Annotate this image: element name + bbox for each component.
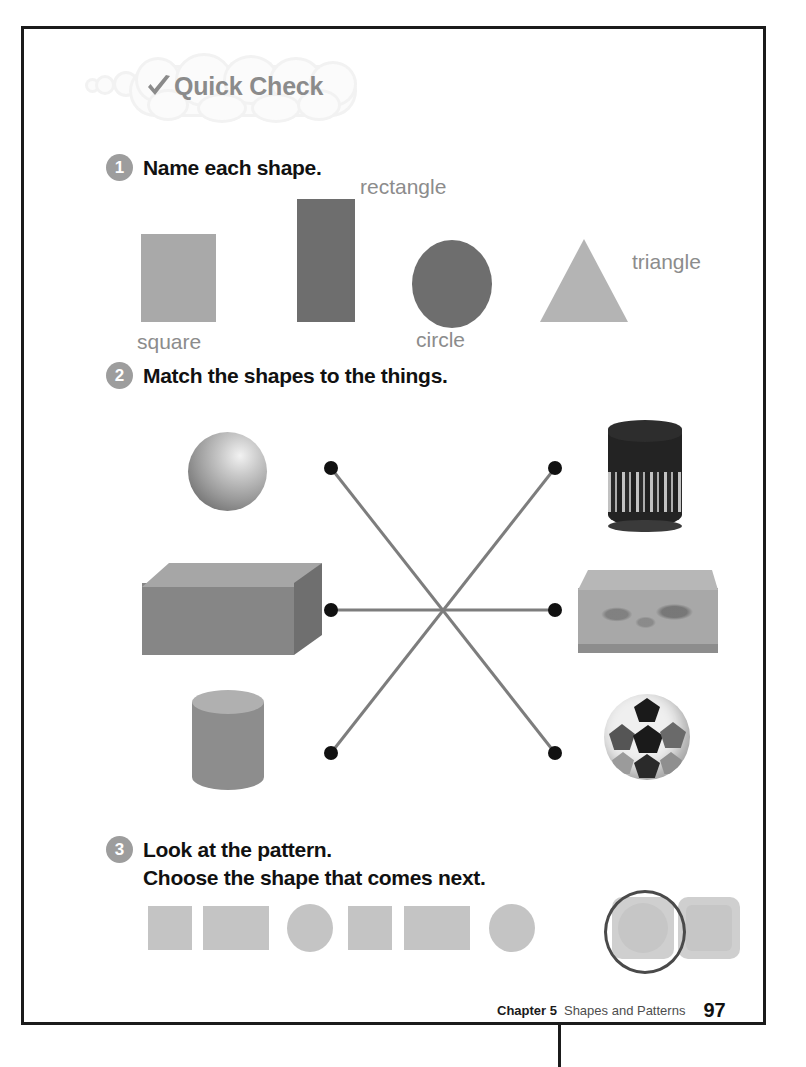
shape-label-triangle: triangle (632, 250, 701, 274)
figure-rectangular-prism (142, 563, 322, 659)
question-2-text: Match the shapes to the things. (143, 364, 448, 388)
question-2-badge: 2 (106, 362, 133, 389)
box-floral-pattern (588, 596, 708, 636)
cloud-puff-tiny-2 (98, 78, 112, 92)
question-3-badge: 3 (106, 836, 133, 863)
shape-rectangle (297, 199, 355, 322)
footer-title: Shapes and Patterns (564, 1003, 685, 1018)
quick-check-banner: Quick Check (90, 58, 360, 120)
page-footer: Chapter 5Shapes and Patterns97 (497, 999, 726, 1022)
figure-sphere (188, 432, 267, 511)
object-tin-canister (606, 420, 684, 530)
pattern-item-5-rectangle (404, 906, 470, 950)
ball-patch-left (609, 724, 635, 750)
selected-answer-circle-marker (604, 890, 686, 974)
question-3-line-1: Look at the pattern. (143, 838, 332, 862)
question-3-line-2: Choose the shape that comes next. (143, 866, 486, 890)
tin-base-rim (608, 520, 682, 532)
cylinder-top-cap (192, 690, 264, 714)
question-1-badge: 1 (106, 154, 133, 181)
tin-lid (608, 420, 682, 442)
shape-circle (412, 240, 492, 328)
ball-patch-center (633, 725, 663, 753)
footer-page-number: 97 (703, 999, 725, 1021)
shape-label-square: square (137, 330, 201, 354)
shape-triangle (540, 239, 628, 322)
ball-patch-right (660, 722, 686, 748)
shape-label-circle: circle (416, 328, 465, 352)
ball-patch-bottom (634, 754, 660, 778)
pattern-item-6-circle (489, 904, 535, 952)
quick-check-label: Quick Check (174, 72, 323, 101)
question-1-text: Name each shape. (143, 156, 321, 180)
pattern-item-3-circle (287, 904, 333, 952)
ball-patch-top (634, 698, 660, 722)
footer-chapter: Chapter 5 (497, 1003, 557, 1018)
box-base-edge (578, 644, 718, 653)
box-top-face (578, 570, 718, 590)
answer-choice-square[interactable] (678, 897, 740, 959)
shape-label-rectangle: rectangle (360, 175, 446, 199)
pattern-item-4-square (348, 906, 392, 950)
tin-decorative-band (608, 472, 682, 512)
figure-cylinder (192, 690, 264, 792)
cloud-puff-tiny-3 (88, 81, 97, 90)
pattern-item-2-rectangle (203, 906, 269, 950)
cylinder-body (192, 702, 264, 790)
pattern-item-1-square (148, 906, 192, 950)
page-spine-rule (558, 1025, 561, 1067)
answer-choice-square-shape (686, 905, 732, 951)
object-gift-box (578, 570, 718, 654)
object-soccer-ball (604, 694, 690, 780)
shape-square (141, 234, 216, 322)
prism-front-face (142, 583, 294, 655)
checkmark-icon (146, 74, 172, 100)
